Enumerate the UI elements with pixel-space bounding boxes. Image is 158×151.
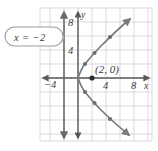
x-tick-label-4: 4 <box>103 80 109 91</box>
x-tick-label-neg4: −4 <box>44 79 57 90</box>
x-axis-name: x <box>143 81 149 91</box>
curve-marker <box>83 90 87 94</box>
x-tick-label-8: 8 <box>131 80 137 91</box>
y-axis-name: y <box>80 10 86 20</box>
curve-marker <box>83 62 87 66</box>
y-tick-label-8: 8 <box>68 17 74 28</box>
callout-label: x = −2 <box>13 32 46 43</box>
parabola-graph: −4 4 8 4 8 x y (2, 0) x = −2 <box>0 0 158 151</box>
focus-point <box>89 75 94 80</box>
y-tick-label-4: 4 <box>68 45 74 56</box>
directrix-callout: x = −2 <box>5 27 64 46</box>
curve-marker <box>108 117 112 121</box>
focus-point-label: (2, 0) <box>95 63 119 76</box>
graph-screenshot: −4 4 8 4 8 x y (2, 0) x = −2 <box>0 0 158 151</box>
curve-marker <box>92 101 96 105</box>
curve-marker <box>108 35 112 39</box>
curve-marker <box>92 51 96 55</box>
